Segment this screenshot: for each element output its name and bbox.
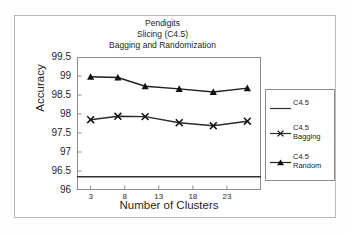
data-series: [87, 113, 251, 129]
legend-item-c45-random[interactable]: C4.5 Random: [269, 152, 333, 170]
scanned-page: Pendigits Slicing (C4.5) Bagging and Ran…: [0, 0, 351, 235]
legend-line-swatch-triangle-marker: [269, 153, 292, 162]
y-axis-tick-label: 98.5: [52, 90, 71, 100]
y-axis-tick-label: 97.5: [52, 128, 71, 138]
series-line: [91, 77, 248, 92]
chart-title-line-1: Pendigits: [60, 18, 265, 29]
legend-line-swatch-plain: [269, 99, 292, 108]
y-axis-tick-label: 96.5: [52, 166, 71, 176]
y-axis-tick-label: 99: [60, 71, 71, 81]
x-axis-label: Number of Clusters: [72, 199, 266, 211]
data-series: [87, 73, 251, 95]
legend-item-c45[interactable]: C4.5: [269, 98, 333, 108]
chart-title: Pendigits Slicing (C4.5) Bagging and Ran…: [60, 18, 265, 52]
y-axis-tick-label: 99.5: [52, 52, 71, 62]
legend-line-swatch-x-marker: [269, 124, 292, 133]
legend-label-c45: C4.5: [293, 98, 309, 107]
y-axis-tick-label: 97: [60, 147, 71, 157]
chart-legend: C4.5 C4.5 Bagging: [265, 89, 335, 181]
legend-item-c45-bagging[interactable]: C4.5 Bagging: [269, 123, 333, 141]
chart-title-line-3: Bagging and Randomization: [60, 40, 265, 51]
y-axis-tick-label: 96: [60, 185, 71, 195]
y-axis-tick-label: 98: [60, 109, 71, 119]
legend-label-c45-bagging: C4.5 Bagging: [293, 123, 321, 141]
plot-area: [77, 57, 261, 190]
series-line: [91, 116, 248, 126]
chart-title-line-2: Slicing (C4.5): [60, 29, 265, 40]
legend-label-c45-random: C4.5 Random: [293, 152, 321, 170]
y-axis-tick-labels: 9696.59797.59898.59999.5: [36, 57, 74, 190]
